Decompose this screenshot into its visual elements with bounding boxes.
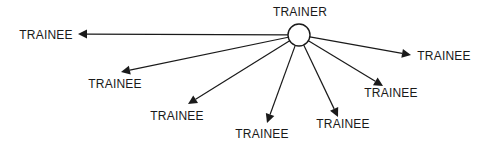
trainee-label: TRAINEE: [150, 109, 203, 123]
trainee-label: TRAINEE: [364, 86, 417, 100]
trainee-label: TRAINEE: [88, 77, 141, 91]
trainee-label: TRAINEE: [235, 127, 288, 141]
edge-line: [196, 41, 290, 99]
trainer-label: TRAINER: [273, 5, 327, 19]
edge-line: [304, 45, 334, 109]
edge-line: [310, 37, 402, 53]
arrowhead-icon: [401, 49, 411, 58]
trainee-label: TRAINEE: [417, 49, 470, 63]
trainee-labels: TRAINEETRAINEETRAINEETRAINEETRAINEETRAIN…: [19, 28, 470, 141]
trainee-label: TRAINEE: [19, 28, 72, 42]
edge-line: [87, 34, 288, 35]
edge-line: [130, 37, 288, 70]
arrowhead-icon: [78, 30, 87, 39]
arrowhead-icon: [188, 95, 198, 104]
trainer-node-circle: [288, 24, 310, 46]
arrowhead-icon: [121, 66, 131, 75]
arrowhead-icon: [373, 77, 383, 86]
trainee-label: TRAINEE: [316, 117, 369, 131]
edge-line: [270, 45, 295, 114]
trainer-trainee-diagram: TRAINER TRAINEETRAINEETRAINEETRAINEETRAI…: [0, 0, 490, 147]
